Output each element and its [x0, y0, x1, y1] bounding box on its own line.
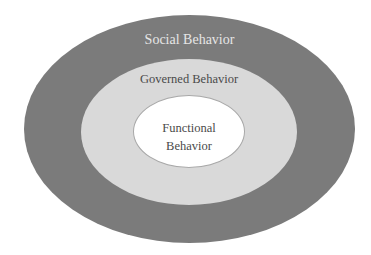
- governed-behavior-label: Governed Behavior: [81, 73, 297, 86]
- functional-behavior-label-line-2: Behavior: [133, 137, 245, 155]
- functional-behavior-label-line-1: Functional: [133, 119, 245, 137]
- social-behavior-label: Social Behavior: [24, 33, 355, 47]
- functional-behavior-label: Functional Behavior: [133, 119, 245, 155]
